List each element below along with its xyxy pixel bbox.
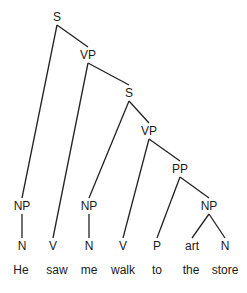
node-p: P <box>153 240 161 252</box>
word-w6: the <box>183 264 200 276</box>
node-pp: PP <box>172 163 188 175</box>
node-np1: NP <box>14 200 31 212</box>
node-vp2: VP <box>141 125 157 137</box>
word-w3: me <box>81 264 98 276</box>
node-s2: S <box>125 87 133 99</box>
edge-vp1-s2 <box>88 63 129 85</box>
edge-s1-np1 <box>22 25 57 198</box>
edge-s2-vp2 <box>129 101 149 123</box>
node-art: art <box>185 240 199 252</box>
edge-np3-art <box>192 214 209 238</box>
node-np2: NP <box>81 200 98 212</box>
edge-vp2-pp <box>149 139 180 161</box>
node-n1: N <box>18 240 27 252</box>
edge-pp-p <box>157 177 180 238</box>
node-np3: NP <box>201 200 218 212</box>
edge-s1-vp1 <box>57 25 88 47</box>
edge-s2-np2 <box>89 101 129 198</box>
word-w5: to <box>152 264 162 276</box>
node-n2: N <box>85 240 94 252</box>
node-s1: S <box>53 11 61 23</box>
node-n3: N <box>221 240 230 252</box>
node-v1: V <box>49 240 57 252</box>
word-w1: He <box>13 264 28 276</box>
word-w2: saw <box>46 264 67 276</box>
edge-np3-n3 <box>209 214 225 238</box>
edge-pp-np3 <box>180 177 209 198</box>
node-v2: V <box>119 240 127 252</box>
word-w7: store <box>212 264 239 276</box>
node-vp1: VP <box>80 49 96 61</box>
word-w4: walk <box>111 264 135 276</box>
edge-vp2-v2 <box>123 139 149 238</box>
